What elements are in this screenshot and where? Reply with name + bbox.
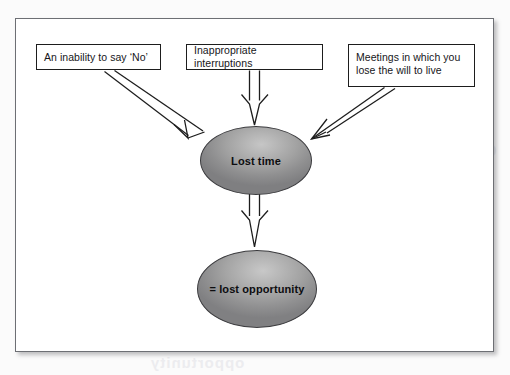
arrow-meetings-to-lost-time [312, 88, 396, 140]
label-box-interruptions-text: Inappropriate interruptions [194, 44, 315, 70]
label-box-meetings: Meetings in which you lose the will to l… [348, 44, 475, 87]
label-box-meetings-text: Meetings in which you lose the will to l… [356, 51, 467, 77]
node-lost-time: Lost time [200, 126, 312, 195]
arrow-lost-time-to-opportunity [242, 192, 269, 247]
node-lost-time-label: Lost time [231, 155, 281, 167]
node-lost-opportunity: = lost opportunity [197, 250, 317, 328]
arrow-interruptions-to-lost-time [242, 71, 269, 126]
label-box-interruptions: Inappropriate interruptions [186, 44, 323, 70]
label-box-inability: An inability to say ‘No’ [36, 44, 161, 70]
label-box-inability-text: An inability to say ‘No’ [44, 51, 148, 64]
arrow-inability-to-lost-time [105, 71, 205, 139]
node-lost-opportunity-label: = lost opportunity [210, 283, 305, 295]
